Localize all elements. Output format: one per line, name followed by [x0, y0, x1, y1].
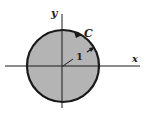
x-axis-label: x	[131, 53, 139, 64]
curve-label: C	[84, 27, 93, 40]
unit-circle-diagram: y x C 1	[0, 0, 147, 113]
radius-label: 1	[76, 51, 83, 62]
y-axis-label: y	[50, 7, 59, 20]
